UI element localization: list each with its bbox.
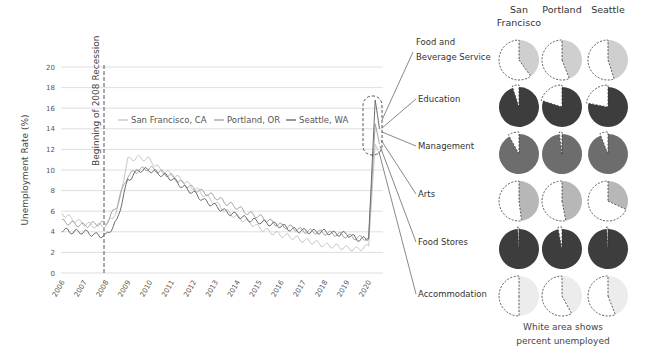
pie-note-line2: percent unemployed	[516, 336, 609, 346]
y-tick-label: 4	[51, 228, 56, 236]
sector-label-education: Education	[418, 94, 460, 104]
pie-employed-slice	[519, 276, 539, 316]
legend: San Francisco, CA Portland, OR Seattle, …	[118, 115, 348, 125]
recession-label: Beginning of 2008 Recession	[91, 36, 101, 166]
x-tick-label: 2010	[138, 279, 154, 298]
y-tick-label: 6	[51, 208, 56, 216]
y-tick-label: 8	[51, 187, 55, 195]
x-tick-label: 2007	[73, 279, 89, 298]
y-tick-label: 12	[46, 146, 55, 154]
x-tick-label: 2008	[95, 279, 111, 298]
legend-label-pdx: Portland, OR	[227, 115, 280, 125]
pie-employed-slice	[588, 134, 628, 174]
connector-lines	[379, 52, 416, 294]
x-tick-label: 2018	[314, 279, 330, 298]
x-tick-label: 2017	[292, 279, 308, 298]
y-axis-label: Unemployment Rate (%)	[20, 114, 30, 225]
y-tick-label: 0	[51, 270, 55, 278]
legend-label-sf: San Francisco, CA	[131, 115, 207, 125]
pie-unemployed-slice	[499, 276, 519, 316]
pie-unemployed-slice	[499, 181, 522, 221]
x-tick-label: 2016	[270, 279, 286, 299]
pie-grid	[499, 40, 628, 316]
pie-unemployed-slice	[586, 85, 608, 107]
pie-employed-slice	[519, 181, 539, 221]
series-line	[62, 124, 380, 241]
connector-line	[380, 146, 416, 242]
sector-label-food-beverage-2: Beverage Service	[416, 52, 491, 62]
y-tick-label: 18	[46, 84, 55, 92]
pie-note-line1: White area shows	[523, 322, 603, 332]
pie-employed-slice	[499, 229, 539, 269]
y-axis-ticks: 02468101214161820	[46, 64, 55, 278]
x-tick-label: 2012	[182, 279, 198, 298]
sector-label-arts: Arts	[418, 189, 436, 199]
y-tick-label: 10	[46, 167, 55, 175]
x-tick-label: 2006	[51, 279, 67, 299]
city-header-sf-1: San	[510, 4, 528, 15]
pie-employed-slice	[588, 229, 628, 269]
x-tick-label: 2015	[248, 279, 264, 298]
x-tick-label: 2013	[204, 279, 220, 298]
connector-line	[381, 140, 416, 194]
y-tick-label: 2	[51, 249, 55, 257]
y-tick-label: 20	[46, 64, 55, 72]
sector-label-management: Management	[418, 141, 475, 151]
connector-line	[382, 52, 413, 120]
unemployment-figure: 02468101214161820 2006200720082009201020…	[0, 0, 658, 353]
connector-line	[382, 132, 416, 146]
city-header-seattle: Seattle	[591, 4, 625, 15]
x-tick-label: 2019	[336, 279, 352, 298]
pie-unemployed-slice	[542, 181, 566, 221]
sector-labels: Food and Beverage Service Education Mana…	[416, 37, 491, 299]
y-tick-label: 16	[46, 105, 55, 113]
city-headers: San Francisco Portland Seattle	[497, 4, 625, 28]
sector-label-accommodation: Accommodation	[418, 289, 487, 299]
x-tick-label: 2020	[357, 279, 373, 298]
legend-label-sea: Seattle, WA	[299, 115, 348, 125]
city-header-portland: Portland	[542, 4, 581, 15]
x-tick-label: 2009	[117, 279, 133, 298]
sector-label-food-stores: Food Stores	[418, 237, 469, 247]
y-tick-label: 14	[46, 125, 55, 133]
connector-line	[379, 152, 416, 294]
connector-line	[382, 99, 416, 128]
x-tick-label: 2014	[226, 279, 242, 299]
x-tick-label: 2011	[160, 279, 176, 298]
sector-label-food-beverage-1: Food and	[416, 37, 455, 47]
city-header-sf-2: Francisco	[497, 17, 542, 28]
x-axis-ticks: 2006200720082009201020112012201320142015…	[51, 279, 373, 299]
y-gridlines	[61, 67, 383, 273]
